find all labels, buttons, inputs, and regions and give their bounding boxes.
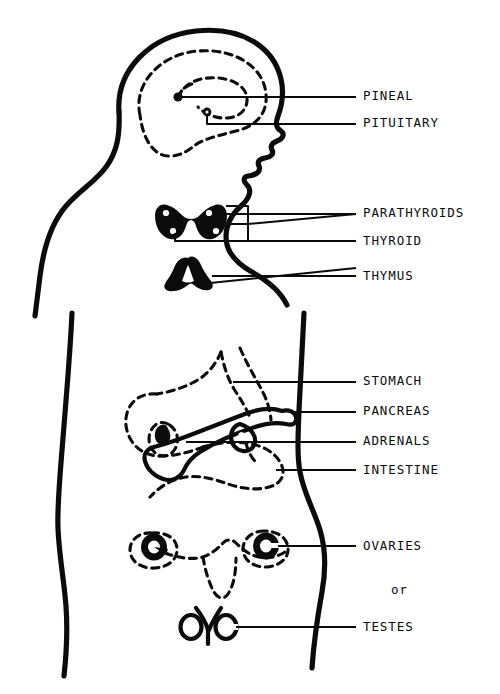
endocrine-diagram: PINEAL PITUITARY PARATHYROIDS THYROID TH…: [0, 0, 500, 694]
ovary-right: [243, 531, 288, 567]
thyroid-gland: [155, 205, 227, 240]
testes-glands: [181, 608, 239, 644]
label-thymus: THYMUS: [363, 270, 414, 283]
label-pineal: PINEAL: [363, 90, 414, 103]
label-stomach: STOMACH: [363, 375, 422, 388]
ovary-left: [130, 533, 177, 568]
torso-outline: [58, 313, 325, 676]
label-pituitary: PITUITARY: [363, 117, 439, 130]
label-thyroid: THYROID: [363, 235, 422, 248]
pituitary-gland: [203, 108, 212, 117]
label-or-conjunction: or: [391, 584, 408, 597]
label-intestine: INTESTINE: [363, 464, 439, 477]
label-pancreas: PANCREAS: [363, 405, 430, 418]
pineal-gland: [173, 84, 192, 102]
label-testes: TESTES: [363, 621, 414, 634]
label-adrenals: ADRENALS: [363, 435, 430, 448]
label-ovaries: OVARIES: [363, 540, 422, 553]
brain-outline: [139, 51, 266, 156]
diagram-canvas: [0, 0, 500, 694]
label-parathyroids: PARATHYROIDS: [363, 207, 464, 220]
head-and-shoulders-outline: [35, 30, 287, 316]
thymus-gland: [164, 257, 212, 292]
leader-line-parathyroids: [226, 214, 356, 224]
